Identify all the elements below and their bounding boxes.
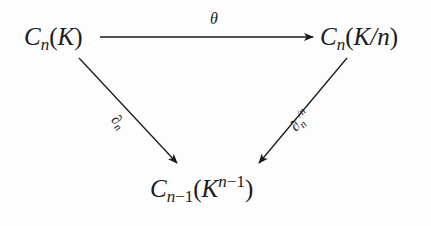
node-superscript: n−1: [218, 172, 245, 191]
subscript-rest: −1: [175, 187, 193, 206]
commutative-diagram: Cn(K) Cn(K/n) Cn−1(Kn−1) θ ∂n ∂n/n: [0, 0, 431, 226]
node-cn-k: Cn(K): [24, 24, 83, 49]
superscript-var: n: [218, 172, 227, 191]
paren-close: ): [390, 23, 398, 50]
superscript-rest: −1: [227, 172, 245, 191]
paren-close: ): [245, 175, 253, 202]
subscript-var: n: [167, 187, 176, 206]
node-argument: K: [58, 23, 75, 50]
node-argument: K/n: [354, 23, 390, 50]
paren-open: (: [345, 23, 353, 50]
node-cn-minus-1: Cn−1(Kn−1): [150, 176, 253, 201]
node-base: C: [320, 23, 337, 50]
node-argument: K: [202, 175, 219, 202]
node-subscript: n−1: [167, 187, 194, 206]
arrow-boundary-left: [79, 58, 177, 163]
node-base: C: [24, 23, 41, 50]
paren-close: ): [74, 23, 82, 50]
node-base: C: [150, 175, 167, 202]
paren-open: (: [49, 23, 57, 50]
paren-open: (: [193, 175, 201, 202]
label-theta: θ: [210, 11, 218, 27]
node-subscript: n: [337, 35, 346, 54]
node-cn-k-mod-n: Cn(K/n): [320, 24, 398, 49]
node-subscript: n: [41, 35, 50, 54]
